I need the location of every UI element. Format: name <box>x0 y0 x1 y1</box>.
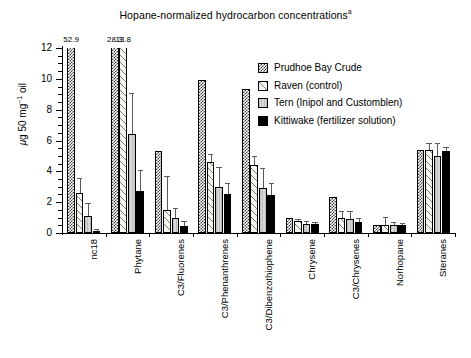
bar <box>67 48 75 233</box>
error-bar-cap <box>383 217 388 218</box>
y-axis-minor-tick <box>58 56 62 57</box>
bar <box>93 231 101 233</box>
error-bar-cap <box>77 178 82 179</box>
y-axis-tick <box>56 79 62 80</box>
legend-item: Raven (control) <box>258 80 402 92</box>
bar <box>417 150 425 233</box>
legend-label: Kittiwake (fertilizer solution) <box>274 116 396 126</box>
legend-item: Tern (Inipol and Customblen) <box>258 97 402 109</box>
chart-legend: Prudhoe Bay CrudeRaven (control)Tern (In… <box>258 62 402 132</box>
bar <box>390 225 398 233</box>
error-bar <box>132 93 133 135</box>
x-axis-category-label: C3/Fluorenes <box>175 239 186 296</box>
bar <box>381 225 389 233</box>
bar <box>294 221 302 233</box>
error-bar <box>228 183 229 195</box>
error-bar-cap <box>85 203 90 204</box>
bar <box>267 195 275 233</box>
x-axis-category-label: Chrysene <box>306 239 317 280</box>
x-axis-tick <box>149 233 150 237</box>
y-axis-minor-tick <box>58 125 62 126</box>
error-bar <box>167 176 168 210</box>
error-bar <box>88 203 89 216</box>
y-axis-tick <box>56 110 62 111</box>
error-bar-cap <box>312 222 317 223</box>
error-bar <box>175 208 176 218</box>
offscale-value-label: 13.8 <box>109 36 137 44</box>
y-axis-tick-label: 0 <box>0 227 52 238</box>
y-axis-minor-tick <box>58 187 62 188</box>
y-axis-minor-tick <box>58 179 62 180</box>
x-axis-tick <box>455 233 456 237</box>
legend-label: Tern (Inipol and Customblen) <box>274 98 402 108</box>
y-axis-minor-tick <box>58 210 62 211</box>
bar <box>242 89 250 233</box>
bar <box>198 80 206 233</box>
bar <box>207 162 215 233</box>
bar <box>346 219 354 233</box>
bar <box>425 150 433 233</box>
y-axis-minor-tick <box>58 63 62 64</box>
error-bar-cap <box>443 147 448 148</box>
bar <box>163 210 171 233</box>
error-bar <box>429 143 430 150</box>
x-axis-category-label: Norhopane <box>394 239 405 286</box>
error-bar-cap <box>356 218 361 219</box>
error-bar <box>263 168 264 188</box>
bar <box>398 225 406 233</box>
bar <box>76 193 84 233</box>
bar <box>84 216 92 233</box>
error-bar <box>385 217 386 225</box>
error-bar-cap <box>339 211 344 212</box>
error-bar-cap <box>138 170 143 171</box>
y-axis-minor-tick <box>58 94 62 95</box>
bar <box>215 187 223 233</box>
error-bar-cap <box>216 167 221 168</box>
x-axis-tick <box>106 233 107 237</box>
error-bar-cap <box>129 93 134 94</box>
error-bar-cap <box>260 168 265 169</box>
bar <box>434 156 442 233</box>
legend-swatch <box>258 63 268 73</box>
error-bar-cap <box>225 183 230 184</box>
legend-swatch <box>258 116 268 126</box>
bar <box>155 151 163 233</box>
y-axis-minor-tick <box>58 218 62 219</box>
legend-item: Prudhoe Bay Crude <box>258 62 402 74</box>
chart-title-text: Hopane-normalized hydrocarbon concentrat… <box>119 9 348 21</box>
y-axis-minor-tick <box>58 102 62 103</box>
bar <box>286 218 294 233</box>
y-axis-tick <box>56 141 62 142</box>
chart-figure: Hopane-normalized hydrocarbon concentrat… <box>0 0 471 358</box>
y-axis-tick <box>56 202 62 203</box>
bar <box>442 151 450 233</box>
legend-swatch <box>258 98 268 108</box>
y-axis-minor-tick <box>58 194 62 195</box>
x-axis-tick <box>324 233 325 237</box>
error-bar-cap <box>181 221 186 222</box>
y-axis-minor-tick <box>58 156 62 157</box>
x-axis-tick <box>193 233 194 237</box>
error-bar-cap <box>208 154 213 155</box>
error-bar-cap <box>426 143 431 144</box>
error-bar <box>437 143 438 156</box>
y-axis-tick <box>56 48 62 49</box>
error-bar-cap <box>400 223 405 224</box>
y-axis-tick <box>56 171 62 172</box>
bar <box>172 218 180 233</box>
x-axis-category-label: C3/Chrysenes <box>350 239 361 299</box>
bar <box>136 191 144 233</box>
y-axis-tick-label: 2 <box>0 196 52 207</box>
y-axis-tick-label: 8 <box>0 104 52 115</box>
legend-item: Kittiwake (fertilizer solution) <box>258 115 402 127</box>
y-axis-tick-label: 6 <box>0 135 52 146</box>
error-bar-cap <box>391 222 396 223</box>
x-axis-category-label: Phytane <box>132 239 143 274</box>
bar <box>119 48 127 233</box>
error-bar-cap <box>295 219 300 220</box>
x-axis-tick <box>368 233 369 237</box>
y-axis-minor-tick <box>58 133 62 134</box>
x-axis-tick <box>237 233 238 237</box>
error-bar <box>211 154 212 162</box>
bar <box>111 48 119 233</box>
